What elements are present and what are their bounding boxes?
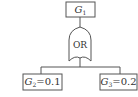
top-event-label: G1 — [66, 5, 95, 16]
top-event-symbol: G — [75, 4, 83, 15]
child-value: =0.1 — [36, 76, 60, 87]
top-event-subscript: 1 — [83, 9, 87, 16]
child-label-g2: G2=0.1 — [23, 77, 62, 88]
or-gate-label: OR — [69, 41, 91, 50]
child-value: =0.2 — [112, 76, 136, 87]
child-label-g3: G3=0.2 — [100, 77, 137, 88]
gate-label: OR — [73, 40, 87, 50]
